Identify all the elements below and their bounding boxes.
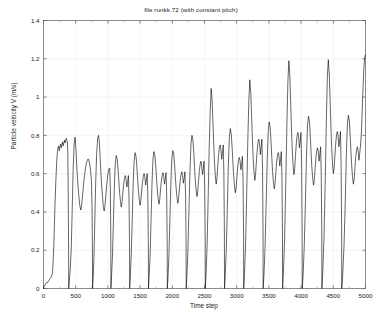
chart-figure: file runkk.72 (with constant pitch) 0500… xyxy=(0,0,382,318)
y-axis-label: Particle velocity V (m/s) xyxy=(10,61,18,171)
svg-text:1.4: 1.4 xyxy=(31,17,40,24)
svg-text:1500: 1500 xyxy=(133,292,147,299)
svg-text:0.4: 0.4 xyxy=(31,208,40,215)
svg-text:2000: 2000 xyxy=(165,292,179,299)
svg-text:1000: 1000 xyxy=(101,292,115,299)
svg-text:0: 0 xyxy=(36,285,40,292)
svg-text:2500: 2500 xyxy=(198,292,212,299)
svg-text:0: 0 xyxy=(42,292,46,299)
svg-text:0.6: 0.6 xyxy=(31,170,40,177)
plot-area: 0500100015002000250030003500400045005000… xyxy=(0,0,382,318)
svg-text:1.2: 1.2 xyxy=(31,55,40,62)
svg-text:0.8: 0.8 xyxy=(31,132,40,139)
svg-text:0.2: 0.2 xyxy=(31,246,40,253)
svg-text:5000: 5000 xyxy=(359,292,373,299)
svg-text:3500: 3500 xyxy=(262,292,276,299)
svg-text:3000: 3000 xyxy=(230,292,244,299)
x-axis-label: Time step xyxy=(43,302,365,310)
svg-text:1: 1 xyxy=(36,93,40,100)
svg-text:4500: 4500 xyxy=(326,292,340,299)
svg-text:4000: 4000 xyxy=(294,292,308,299)
svg-text:500: 500 xyxy=(71,292,82,299)
grid-lines xyxy=(44,21,366,289)
